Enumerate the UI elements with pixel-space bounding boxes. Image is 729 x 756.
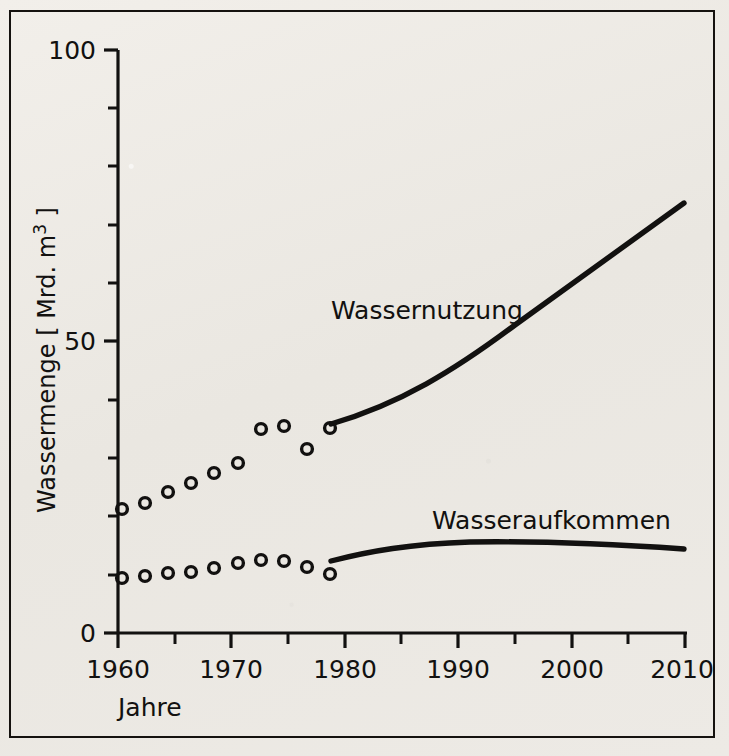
- data-point: [163, 568, 174, 579]
- y-axis-label: Wassermenge [ Mrd. m3 ]: [30, 207, 61, 513]
- data-point: [279, 421, 290, 432]
- series-wasseraufkommen-markers: [117, 555, 336, 584]
- data-point: [325, 569, 336, 580]
- y-axis-label-main: Wassermenge [ Mrd. m: [33, 235, 61, 513]
- x-axis-label: Jahre: [116, 693, 182, 722]
- x-tick-label-1980: 1980: [313, 655, 377, 684]
- data-point: [256, 555, 267, 566]
- y-axis-label-exponent: 3: [30, 224, 50, 235]
- y-tick-label-50: 50: [64, 327, 96, 356]
- annotation-wassernutzung: Wassernutzung: [331, 296, 523, 325]
- data-point: [117, 573, 128, 584]
- y-axis-major-ticks: [104, 50, 118, 633]
- y-tick-label-0: 0: [80, 619, 96, 648]
- x-tick-label-2000: 2000: [540, 655, 604, 684]
- x-tick-label-1970: 1970: [199, 655, 263, 684]
- data-point: [117, 504, 128, 515]
- data-point: [256, 424, 267, 435]
- annotation-wasseraufkommen: Wasseraufkommen: [432, 506, 671, 535]
- series-wassernutzung-markers: [117, 421, 336, 515]
- data-point: [302, 562, 313, 573]
- data-point: [302, 444, 313, 455]
- x-tick-label-1960: 1960: [86, 655, 150, 684]
- data-point: [140, 498, 151, 509]
- svg-text:Wassermenge [ Mrd. m3 ]: Wassermenge [ Mrd. m3 ]: [30, 207, 61, 513]
- data-point: [233, 458, 244, 469]
- data-point: [186, 478, 197, 489]
- data-point: [209, 468, 220, 479]
- series-wasseraufkommen-projection: [331, 542, 684, 561]
- y-tick-label-100: 100: [48, 36, 96, 65]
- x-axis-minor-ticks: [175, 633, 628, 644]
- chart-plot: 100 50 0 1960 1970 1980 1990 2000 2010 J…: [0, 0, 729, 756]
- data-point: [233, 558, 244, 569]
- data-point: [163, 487, 174, 498]
- data-point: [209, 563, 220, 574]
- data-point: [279, 556, 290, 567]
- data-point: [186, 567, 197, 578]
- figure-page: 100 50 0 1960 1970 1980 1990 2000 2010 J…: [0, 0, 729, 756]
- y-axis-label-close: ]: [33, 207, 61, 224]
- data-point: [140, 571, 151, 582]
- x-tick-label-1990: 1990: [426, 655, 490, 684]
- x-tick-label-2010: 2010: [650, 655, 714, 684]
